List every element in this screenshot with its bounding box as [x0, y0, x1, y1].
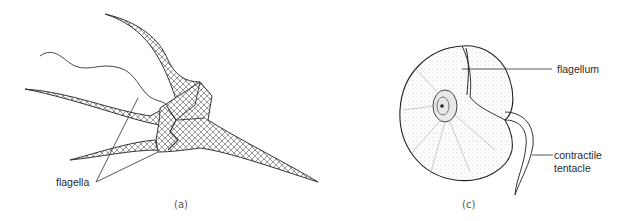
ceratium-flagellum	[40, 52, 168, 108]
label-flagellum: flagellum	[557, 63, 599, 75]
label-flagella: flagella	[56, 176, 89, 188]
figure-canvas: flagella (a) flagellum contractile tenta…	[0, 0, 618, 221]
label-contractile: contractile	[554, 149, 602, 161]
caption-c: (c)	[462, 199, 475, 210]
ceratium-body	[25, 14, 318, 182]
caption-a: (a)	[174, 199, 188, 210]
noctiluca-body	[400, 46, 513, 181]
label-tentacle: tentacle	[554, 162, 591, 174]
illustration-layer	[0, 0, 618, 221]
